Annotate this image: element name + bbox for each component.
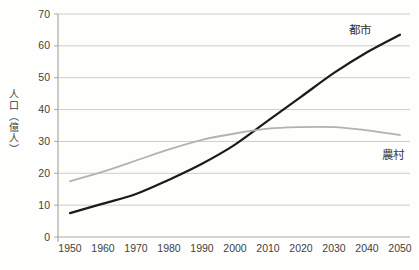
x-tick-label: 1970 [124,242,148,254]
series-line-urban [70,35,400,213]
y-tick-label: 0 [44,231,50,243]
x-tick-label: 2040 [355,242,379,254]
series-label-urban: 都市 [349,21,371,37]
y-axis-title: 人口（億人） [5,89,20,155]
x-tick-label: 2050 [388,242,412,254]
y-tick-label: 60 [38,39,50,51]
x-tick-label: 2030 [322,242,346,254]
y-tick-label: 50 [38,71,50,83]
x-tick-label: 1980 [157,242,181,254]
x-tick-label: 2020 [289,242,313,254]
x-tick-label: 1960 [91,242,115,254]
x-tick-label: 2000 [223,242,247,254]
y-tick-label: 70 [38,8,50,20]
y-tick-label: 30 [38,135,50,147]
chart-canvas: 0102030405060701950196019701980199020002… [0,0,419,270]
y-tick-label: 40 [38,103,50,115]
x-tick-label: 1990 [190,242,214,254]
y-tick-label: 10 [38,199,50,211]
x-tick-label: 1950 [58,242,82,254]
series-label-rural: 農村 [382,146,404,162]
population-line-chart: 0102030405060701950196019701980199020002… [0,0,419,270]
y-tick-label: 20 [38,167,50,179]
x-tick-label: 2010 [256,242,280,254]
